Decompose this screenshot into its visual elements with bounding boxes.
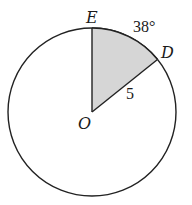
shaded-sector bbox=[92, 28, 158, 112]
radius-length-label: 5 bbox=[126, 85, 134, 102]
circle-sector-diagram: E D O 38° 5 bbox=[0, 0, 192, 205]
label-O: O bbox=[78, 114, 91, 133]
label-D: D bbox=[160, 43, 174, 62]
label-E: E bbox=[85, 8, 98, 27]
arc-angle-label: 38° bbox=[133, 18, 155, 35]
